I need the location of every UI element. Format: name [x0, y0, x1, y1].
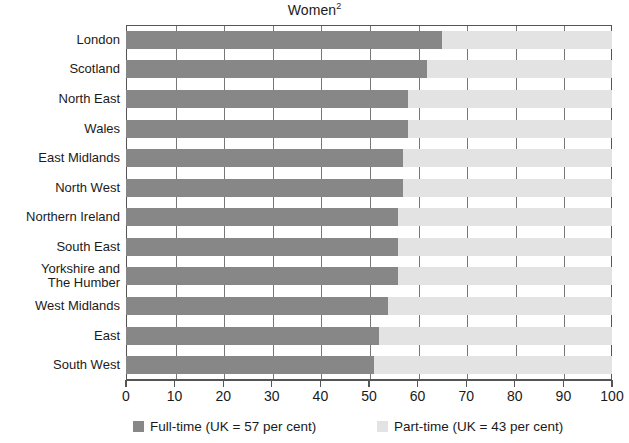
- chart-title-text: Women: [288, 2, 336, 18]
- x-axis: 0102030405060708090100: [126, 380, 612, 414]
- category-label: North East: [0, 92, 120, 106]
- category-axis-labels: LondonScotlandNorth EastWalesEast Midlan…: [0, 25, 120, 380]
- legend-swatch-full-time: [133, 421, 144, 432]
- x-tick-50: [368, 380, 369, 387]
- bar-row: [126, 90, 612, 108]
- plot-wrapper: [126, 25, 612, 380]
- bar-row: [126, 208, 612, 226]
- x-tick-label-100: 100: [589, 388, 629, 404]
- bar-segment-full-time: [126, 90, 408, 108]
- category-label: North West: [0, 181, 120, 195]
- bar-segment-full-time: [126, 120, 408, 138]
- category-label: Yorkshire and The Humber: [0, 262, 120, 290]
- x-tick-20: [223, 380, 224, 387]
- x-tick-90: [563, 380, 564, 387]
- bar-segment-full-time: [126, 356, 374, 374]
- bar-row: [126, 60, 612, 78]
- x-tick-70: [466, 380, 467, 387]
- bar-row: [126, 179, 612, 197]
- bar-segment-full-time: [126, 179, 403, 197]
- x-tick-60: [417, 380, 418, 387]
- bar-segment-part-time: [408, 90, 612, 108]
- bar-row: [126, 31, 612, 49]
- bar-segment-full-time: [126, 327, 379, 345]
- category-label: South East: [0, 240, 120, 254]
- category-label: East Midlands: [0, 151, 120, 165]
- chart-container: Women2 LondonScotlandNorth EastWalesEast…: [0, 0, 629, 443]
- bar-segment-part-time: [403, 149, 612, 167]
- x-tick-label-0: 0: [103, 388, 149, 404]
- bar-segment-part-time: [442, 31, 612, 49]
- bar-segment-part-time: [398, 208, 612, 226]
- category-label: Scotland: [0, 62, 120, 76]
- bar-row: [126, 297, 612, 315]
- x-tick-label-30: 30: [249, 388, 295, 404]
- legend-swatch-part-time: [377, 421, 388, 432]
- x-tick-label-80: 80: [492, 388, 538, 404]
- x-tick-label-40: 40: [297, 388, 343, 404]
- category-label: London: [0, 33, 120, 47]
- bar-segment-full-time: [126, 208, 398, 226]
- x-tick-100: [611, 380, 612, 387]
- x-tick-label-60: 60: [395, 388, 441, 404]
- bar-segment-part-time: [403, 179, 612, 197]
- bar-segment-part-time: [408, 120, 612, 138]
- chart-legend: Full-time (UK = 57 per cent) Part-time (…: [0, 419, 629, 441]
- bar-segment-part-time: [379, 327, 612, 345]
- bar-row: [126, 238, 612, 256]
- bar-segment-part-time: [398, 267, 612, 285]
- x-tick-label-20: 20: [200, 388, 246, 404]
- category-label: East: [0, 329, 120, 343]
- bar-segment-full-time: [126, 267, 398, 285]
- x-tick-label-70: 70: [443, 388, 489, 404]
- x-tick-10: [174, 380, 175, 387]
- bar-segment-part-time: [427, 60, 612, 78]
- bar-segment-part-time: [398, 238, 612, 256]
- chart-title-footnote-marker: 2: [336, 1, 341, 11]
- bar-row: [126, 356, 612, 374]
- bar-segment-part-time: [374, 356, 612, 374]
- category-label: Northern Ireland: [0, 210, 120, 224]
- bar-segment-full-time: [126, 149, 403, 167]
- bar-segment-full-time: [126, 31, 442, 49]
- legend-label-part-time: Part-time (UK = 43 per cent): [394, 419, 563, 434]
- category-label: South West: [0, 358, 120, 372]
- x-tick-40: [320, 380, 321, 387]
- bar-segment-part-time: [388, 297, 612, 315]
- bar-segment-full-time: [126, 238, 398, 256]
- x-tick-0: [125, 380, 126, 387]
- bar-segment-full-time: [126, 297, 388, 315]
- category-label: West Midlands: [0, 299, 120, 313]
- x-tick-label-90: 90: [540, 388, 586, 404]
- bar-segment-full-time: [126, 60, 427, 78]
- x-tick-30: [271, 380, 272, 387]
- bar-row: [126, 120, 612, 138]
- bar-row: [126, 149, 612, 167]
- bar-row: [126, 327, 612, 345]
- legend-item-full-time: Full-time (UK = 57 per cent): [133, 419, 316, 434]
- category-label: Wales: [0, 122, 120, 136]
- legend-item-part-time: Part-time (UK = 43 per cent): [377, 419, 563, 434]
- x-tick-label-50: 50: [346, 388, 392, 404]
- bar-row: [126, 267, 612, 285]
- chart-title: Women2: [0, 2, 629, 18]
- x-tick-label-10: 10: [152, 388, 198, 404]
- legend-label-full-time: Full-time (UK = 57 per cent): [150, 419, 316, 434]
- bar-rows: [126, 25, 612, 380]
- x-tick-80: [514, 380, 515, 387]
